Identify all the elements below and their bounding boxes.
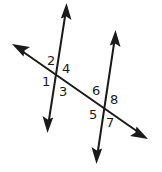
transversal-line — [12, 44, 148, 139]
angle-label-2: 2 — [47, 54, 55, 67]
angle-label-1: 1 — [42, 75, 50, 88]
angle-label-6: 6 — [92, 84, 100, 97]
angle-label-8: 8 — [110, 93, 118, 106]
parallel-line-left-arrow-top — [61, 3, 72, 20]
angle-label-5: 5 — [89, 108, 97, 121]
geometry-canvas — [0, 0, 162, 172]
parallel-line-right-arrow-bottom — [92, 147, 103, 164]
angle-label-4: 4 — [62, 62, 70, 75]
geometry-figure: 1 2 3 4 5 6 7 8 — [0, 0, 162, 172]
transversal-line-segment — [19, 49, 141, 134]
angle-label-3: 3 — [59, 85, 67, 98]
parallel-line-right-arrow-top — [110, 30, 121, 47]
angle-label-7: 7 — [106, 116, 114, 129]
parallel-line-left-arrow-bottom — [43, 116, 54, 133]
